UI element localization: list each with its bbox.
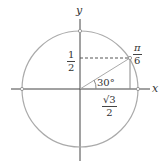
point-label-pi-over-6: π 6 xyxy=(133,43,142,66)
y-coordinate-label: 1 2 xyxy=(67,50,75,73)
x-coordinate-label: √3 2 xyxy=(102,95,117,118)
y-axis-label: y xyxy=(76,5,82,16)
unit-circle-diagram xyxy=(0,0,164,166)
x-axis-label: x xyxy=(152,83,158,94)
point-pi-6 xyxy=(128,56,131,59)
angle-arc xyxy=(94,80,96,89)
point-left xyxy=(20,87,23,90)
point-right xyxy=(136,87,139,90)
point-top xyxy=(78,29,81,32)
angle-label: 30° xyxy=(97,78,115,88)
